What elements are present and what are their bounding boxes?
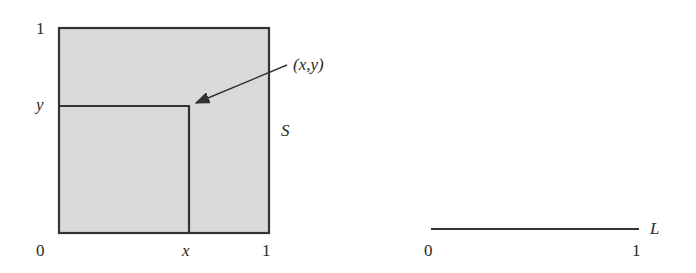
unit-square <box>59 28 269 233</box>
point-annotation: (x,y) <box>293 56 324 73</box>
y-label: y <box>36 96 44 113</box>
y-max-label: 1 <box>36 20 45 37</box>
square-label: S <box>281 122 290 139</box>
origin-label: 0 <box>36 242 45 259</box>
segment-start-label: 0 <box>424 242 433 259</box>
segment-label: L <box>650 220 659 237</box>
segment-end-label: 1 <box>632 242 641 259</box>
x-max-label: 1 <box>262 242 271 259</box>
diagram-canvas <box>0 0 696 273</box>
x-label: x <box>182 242 190 259</box>
